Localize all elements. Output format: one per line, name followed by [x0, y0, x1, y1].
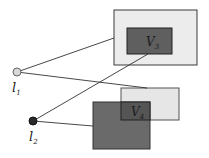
l2-node: [29, 117, 37, 125]
edge-l1-v4: [17, 72, 147, 88]
edge-l2-v4: [33, 121, 93, 126]
l1-node: [13, 68, 21, 76]
edge-l1-v3: [17, 38, 114, 72]
l1-label: l1: [12, 80, 21, 97]
l2-label: l2: [29, 129, 38, 146]
projection-diagram: V3 V4 l1 l2: [0, 0, 209, 158]
